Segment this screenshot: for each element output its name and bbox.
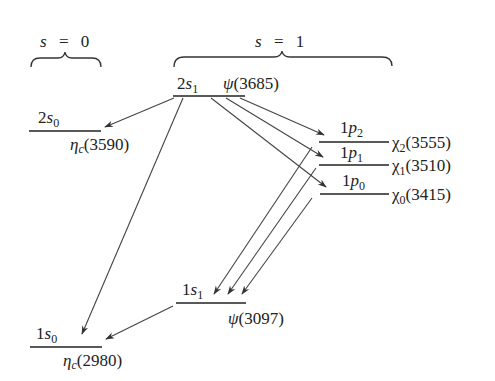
particle-label-chi1-3510: χ1(3510) xyxy=(391,156,451,178)
spin-group-s0: s = 0 xyxy=(31,32,101,67)
particle-label-etac-3590: ηc(3590) xyxy=(70,135,129,156)
level-2s1: 2s1 ψ(3685) xyxy=(173,74,279,96)
particle-label-chi0-3415: χ0(3415) xyxy=(391,185,451,207)
transition-2s1-2s0 xyxy=(105,98,174,127)
particle-label-etac-2980: ηc(2980) xyxy=(63,351,122,372)
level-1p2: 1p2 χ2(3555) xyxy=(319,118,451,155)
transition-1s1-1s0 xyxy=(106,306,173,339)
transition-1p0-1s1 xyxy=(242,198,312,294)
particle-label-chi2-3555: χ2(3555) xyxy=(391,133,451,155)
level-label-2s0: 2s0 xyxy=(38,108,59,130)
level-label-1p1: 1p1 xyxy=(340,143,363,165)
particle-label-psi-3097: ψ(3097) xyxy=(228,309,284,328)
level-1p0: 1p0 χ0(3415) xyxy=(320,171,451,207)
level-label-1p0: 1p0 xyxy=(342,171,365,193)
spin-group-s1: s = 1 xyxy=(174,32,392,67)
transition-2s1-1p1 xyxy=(226,98,323,157)
charmonium-level-diagram: s = 0 s = 1 2s1 ψ(3685) xyxy=(0,0,495,381)
level-1s0: 1s0 ηc(2980) xyxy=(30,324,122,372)
transition-1p2-1s1 xyxy=(214,147,312,294)
transition-2s1-1p2 xyxy=(240,98,324,135)
level-label-1s1: 1s1 xyxy=(182,280,203,302)
transition-2s1-1s0 xyxy=(82,98,183,334)
spin-group-s1-label: s = 1 xyxy=(255,32,304,51)
level-1s1: 1s1 ψ(3097) xyxy=(176,280,284,328)
transition-1p1-1s1 xyxy=(228,168,316,294)
particle-label-psi-3685: ψ(3685) xyxy=(223,74,279,93)
transition-2s1-1p0 xyxy=(211,98,326,187)
level-label-2s1: 2s1 xyxy=(177,74,198,96)
brace-s0 xyxy=(31,52,101,67)
brace-s1 xyxy=(174,51,392,67)
level-label-1s0: 1s0 xyxy=(36,324,57,346)
level-label-1p2: 1p2 xyxy=(340,118,363,140)
spin-group-s0-label: s = 0 xyxy=(40,32,89,51)
level-2s0: 2s0 ηc(3590) xyxy=(29,108,129,156)
